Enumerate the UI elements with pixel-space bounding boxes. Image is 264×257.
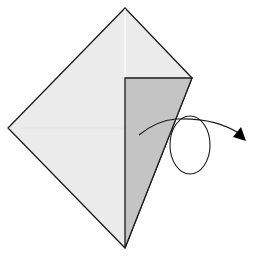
diagram-canvas	[0, 0, 264, 257]
turn-over-arrow-loop	[170, 116, 210, 174]
arrowhead-icon	[233, 127, 246, 141]
folded-flap	[125, 78, 192, 248]
origami-diagram: Kite-shaped paper with a right-side flap…	[0, 0, 264, 257]
